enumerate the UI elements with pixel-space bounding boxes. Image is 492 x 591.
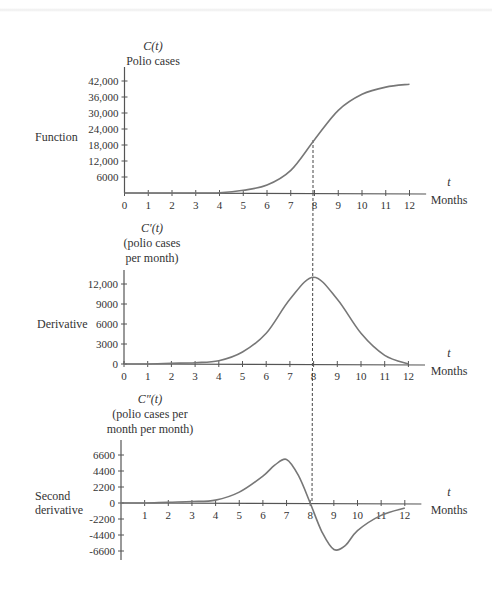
x-tick-label: 12 [399,509,410,521]
y-tick-label: 12,000 [88,155,119,167]
y-tick-label: 6000 [96,318,119,330]
svg-text:C′(t): C′(t) [141,221,163,235]
y-tick-label: 24,000 [88,123,119,135]
x-tick-label: 0 [122,199,128,211]
x-tick-label: 6 [263,370,269,382]
x-tick-label: 5 [240,370,246,382]
x-tick-label: 8 [312,199,318,211]
y-tick-label: 6000 [97,171,120,183]
row-label-derivative: Derivative [37,317,88,331]
panel-derivative: 030006000900012,0000123456789101112tMont… [88,270,468,382]
x-tick-label: 10 [356,370,368,382]
derivative-curve [124,277,408,364]
x-axis-variable: t [447,346,451,360]
dashed-line-t8-lower [312,193,313,503]
x-tick-label: 6 [264,199,270,211]
x-axis-units: Months [431,503,468,517]
x-tick-label: 7 [284,509,290,521]
panel-3-title: C″(t) (polio cases per month per month) [107,392,194,436]
x-tick-label: 2 [169,370,175,382]
panel-second-derivative: -6600-4400-22000220044006600123456789101… [89,440,467,560]
svg-text:C″(t): C″(t) [138,392,162,406]
svg-text:(polio cases per: (polio cases per [112,407,187,421]
x-tick-label: 11 [380,199,391,211]
x-tick-label: 2 [166,509,172,521]
x-tick-label: 12 [404,199,415,211]
x-tick-label: 9 [331,509,337,521]
x-tick-label: 2 [169,199,175,211]
axes-layer: 600012,00018,00024,00030,00036,00042,000… [88,67,468,560]
x-tick-label: 3 [193,199,199,211]
y-tick-label: 30,000 [88,107,119,119]
y-tick-label: -4400 [89,529,115,541]
x-tick-label: 1 [146,199,152,211]
x-tick-label: 1 [142,509,148,521]
x-tick-label: 11 [379,370,390,382]
x-tick-label: 10 [352,509,364,521]
panel-function: 600012,00018,00024,00030,00036,00042,000… [88,67,467,211]
y-tick-label: -2200 [89,513,115,525]
x-tick-label: 4 [213,509,219,521]
svg-text:month per month): month per month) [107,422,194,436]
x-tick-label: 1 [145,370,151,382]
y-tick-label: 4400 [93,465,116,477]
x-tick-label: 6 [260,509,266,521]
panel-2-title: C′(t) (polio cases per month) [124,221,181,265]
x-axis-units: Months [431,193,468,207]
x-tick-label: 5 [241,199,247,211]
x-tick-label: 3 [192,370,198,382]
y-tick-label: 18,000 [88,139,119,151]
function-curve [125,84,410,193]
x-axis-units: Months [431,364,468,378]
x-tick-label: 12 [403,370,414,382]
svg-text:(polio cases: (polio cases [124,236,181,250]
x-tick-label: 9 [335,370,341,382]
y-tick-label: 12,000 [88,278,119,290]
y-tick-label: 3000 [96,338,119,350]
x-tick-label: 9 [336,199,342,211]
y-tick-label: 0 [113,358,119,370]
y-tick-label: -6600 [89,545,115,557]
y-tick-label: 2200 [93,481,116,493]
y-tick-label: 36,000 [88,91,119,103]
y-tick-label: 0 [110,497,116,509]
x-axis-variable: t [447,485,451,499]
panel-1-title: C(t) Polio cases [126,39,180,68]
x-tick-label: 10 [357,199,369,211]
curves-layer [121,84,410,550]
y-tick-label: 9000 [96,298,119,310]
y-tick-label: 42,000 [88,75,119,87]
row-label-function: Function [35,130,78,144]
svg-text:per month): per month) [126,251,179,265]
row-label-second-1: Second [35,489,70,503]
x-axis-variable: t [447,175,451,189]
svg-text:C(t): C(t) [143,39,162,53]
x-tick-label: 5 [237,509,243,521]
y-tick-label: 6600 [93,449,116,461]
x-tick-label: 3 [189,509,195,521]
svg-text:Polio cases: Polio cases [126,54,180,68]
polio-cases-charts: C(t) Polio cases C′(t) (polio cases per … [0,0,492,591]
x-tick-label: 4 [216,370,222,382]
x-tick-label: 8 [311,370,317,382]
x-tick-label: 4 [217,199,223,211]
row-label-second-2: derivative [35,503,83,517]
x-tick-label: 7 [287,370,293,382]
x-tick-label: 7 [288,199,294,211]
x-tick-label: 0 [121,370,127,382]
